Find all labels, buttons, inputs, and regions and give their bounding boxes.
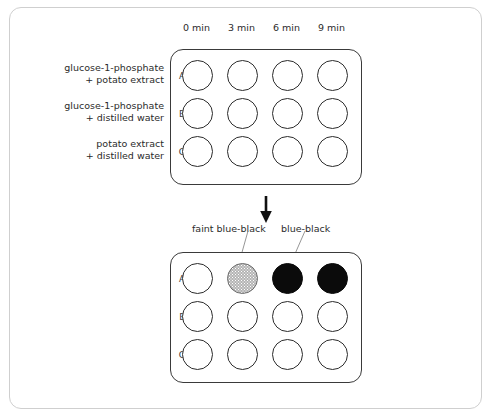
down-arrow-icon xyxy=(258,196,274,224)
column-header-3: 9 min xyxy=(309,22,355,33)
treatment-row-C: potato extract+ distilled water xyxy=(24,138,164,163)
treatment-row-A: glucose-1-phosphate+ potato extract xyxy=(24,62,164,87)
plate-after: AEC xyxy=(170,252,362,383)
well-A1-empty xyxy=(182,60,213,91)
well-E3-empty xyxy=(272,301,303,332)
well-C1-empty xyxy=(182,339,213,370)
treatment-line-2: + potato extract xyxy=(24,74,164,87)
treatment-labels: glucose-1-phosphate+ potato extractgluco… xyxy=(22,0,164,416)
well-A2-faint xyxy=(227,263,258,294)
well-C3-empty xyxy=(272,136,303,167)
well-C3-empty xyxy=(272,339,303,370)
callout-blue-black: blue-black xyxy=(281,223,330,234)
well-B1-empty xyxy=(182,98,213,129)
treatment-line-1: glucose-1-phosphate xyxy=(24,62,164,75)
treatment-line-1: glucose-1-phosphate xyxy=(24,100,164,113)
well-B2-empty xyxy=(227,98,258,129)
well-C4-empty xyxy=(317,136,348,167)
treatment-line-2: + distilled water xyxy=(24,112,164,125)
well-E4-empty xyxy=(317,301,348,332)
well-B4-empty xyxy=(317,98,348,129)
well-A3-empty xyxy=(272,60,303,91)
well-C2-empty xyxy=(227,136,258,167)
treatment-row-B: glucose-1-phosphate+ distilled water xyxy=(24,100,164,125)
column-header-2: 6 min xyxy=(264,22,310,33)
well-A4-empty xyxy=(317,60,348,91)
treatment-line-2: + distilled water xyxy=(24,150,164,163)
column-header-0: 0 min xyxy=(174,22,220,33)
well-C1-empty xyxy=(182,136,213,167)
well-A4-dark xyxy=(317,263,348,294)
plate-before: ABC xyxy=(170,49,362,185)
well-E1-empty xyxy=(182,301,213,332)
callout-faint-blue-black: faint blue-black xyxy=(192,223,266,234)
well-A2-empty xyxy=(227,60,258,91)
well-C2-empty xyxy=(227,339,258,370)
diagram-stage: 0 min3 min6 min9 min glucose-1-phosphate… xyxy=(0,0,491,416)
treatment-line-1: potato extract xyxy=(24,138,164,151)
well-B3-empty xyxy=(272,98,303,129)
well-C4-empty xyxy=(317,339,348,370)
column-header-1: 3 min xyxy=(219,22,265,33)
well-A3-dark xyxy=(272,263,303,294)
well-E2-empty xyxy=(227,301,258,332)
well-A1-empty xyxy=(182,263,213,294)
